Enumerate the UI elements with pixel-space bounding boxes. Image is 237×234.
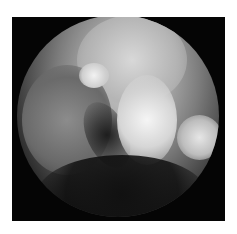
lesion-center [117,75,177,165]
lesion-right [177,115,219,160]
endoscopic-view [17,17,219,217]
image-frame [12,17,225,221]
lesion-top-left [79,63,109,88]
